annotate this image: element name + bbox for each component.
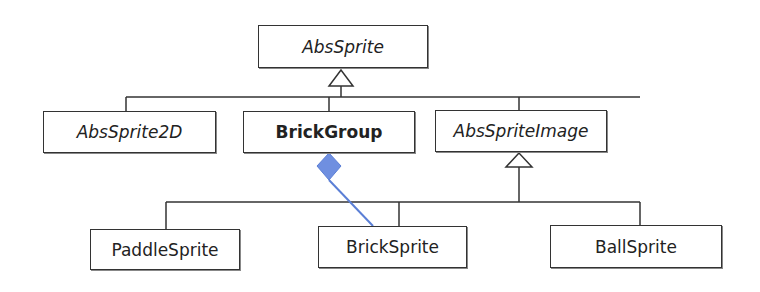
inheritance-arrow-icon (506, 153, 532, 167)
class-abs-sprite: AbsSprite (258, 25, 428, 68)
class-brick-sprite: BrickSprite (318, 226, 467, 268)
class-label: BrickGroup (276, 122, 383, 142)
class-abs-sprite-image: AbsSpriteImage (435, 110, 607, 152)
class-label: AbsSprite2D (77, 122, 183, 142)
class-label: BrickSprite (346, 237, 439, 257)
class-abs-sprite-2d: AbsSprite2D (43, 111, 216, 153)
class-label: BallSprite (595, 237, 677, 257)
inheritance-arrow-icon (329, 70, 353, 86)
class-label: AbsSprite (302, 37, 384, 57)
class-label: PaddleSprite (111, 240, 218, 260)
composition-diamond-icon (317, 153, 341, 180)
uml-diagram: AbsSprite AbsSprite2D BrickGroup AbsSpri… (0, 0, 760, 292)
class-label: AbsSpriteImage (454, 121, 589, 141)
class-paddle-sprite: PaddleSprite (90, 229, 240, 270)
class-brick-group: BrickGroup (243, 111, 415, 153)
class-ball-sprite: BallSprite (550, 225, 722, 268)
